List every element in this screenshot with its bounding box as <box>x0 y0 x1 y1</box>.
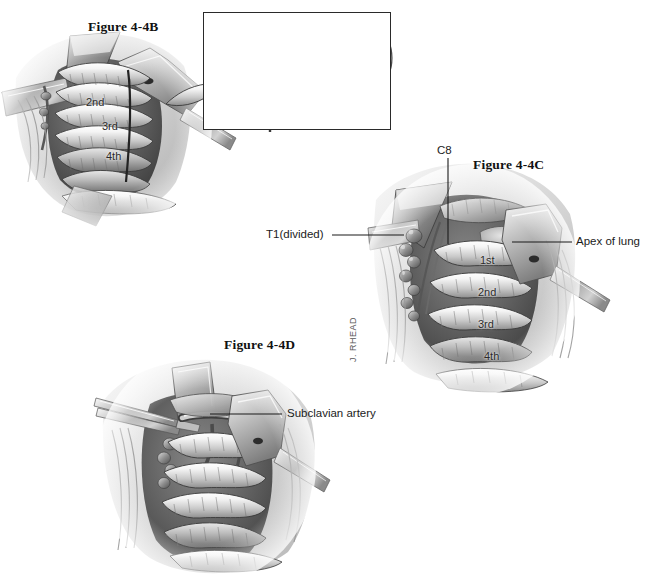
figure-4-4d-artwork <box>94 348 330 583</box>
figure-4-4b-artwork <box>0 22 236 230</box>
artist-signature: J. RHEAD <box>348 317 358 362</box>
callout-leader-lines <box>210 158 572 414</box>
rib-label-c-4th: 4th <box>484 350 499 362</box>
label-subclavian-artery: Subclavian artery <box>287 407 376 419</box>
figure-title-4-4c: Figure 4-4C <box>473 157 544 173</box>
rib-label-c-3rd: 3rd <box>478 318 494 330</box>
label-c8: C8 <box>437 144 452 156</box>
inset-frame <box>203 12 391 130</box>
rib-label-c-1st: 1st <box>480 254 495 266</box>
rib-label-b-2nd: 2nd <box>86 96 104 108</box>
figure-title-4-4d: Figure 4-4D <box>224 337 295 353</box>
rib-label-c-2nd: 2nd <box>478 286 496 298</box>
illustration-plate: Figure 4-4B Figure 4-4C Figure 4-4D 2nd … <box>0 0 648 583</box>
label-apex-of-lung: Apex of lung <box>576 235 640 247</box>
label-t1-divided: T1(divided) <box>266 228 324 240</box>
rib-label-b-4th: 4th <box>106 150 121 162</box>
rib-label-b-3rd: 3rd <box>102 120 118 132</box>
figure-title-4-4b: Figure 4-4B <box>88 19 159 35</box>
